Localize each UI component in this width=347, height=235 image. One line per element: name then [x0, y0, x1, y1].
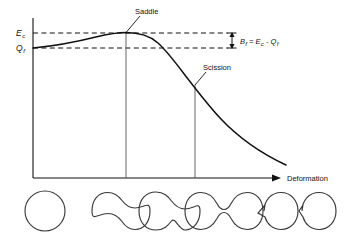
- shape-slightly-deformed: [92, 193, 150, 230]
- barrier-height-annotation: Bf = Ec - Qf: [228, 32, 280, 49]
- formula-bf: B: [240, 37, 245, 46]
- qf-label: Qf: [16, 43, 26, 54]
- formula-qf: Q: [271, 37, 277, 46]
- fission-energy-diagram: Saddle Scission Ec Qf Bf = Ec - Qf Defor…: [0, 0, 347, 235]
- x-axis-arrowhead: [272, 175, 281, 182]
- nuclear-shape-sequence: [25, 191, 336, 231]
- saddle-leader-line: [126, 16, 140, 33]
- x-axis-label: Deformation: [287, 174, 328, 183]
- qf-label-subscript: f: [23, 48, 26, 54]
- formula-minus: -: [264, 37, 271, 46]
- shape-sphere: [25, 191, 65, 231]
- scission-leader-line: [195, 72, 206, 85]
- diagram-canvas: Saddle Scission Ec Qf Bf = Ec - Qf Defor…: [0, 0, 347, 235]
- scission-annotation: Scission: [195, 63, 231, 85]
- saddle-label: Saddle: [135, 7, 158, 16]
- formula-equals: =: [247, 37, 256, 46]
- y-axis-labels: Ec Qf: [16, 28, 26, 54]
- shape-separated-fragment: [299, 193, 336, 230]
- saddle-annotation: Saddle: [126, 7, 158, 33]
- barrier-formula: Bf = Ec - Qf: [240, 37, 280, 47]
- ec-label: Ec: [16, 28, 25, 39]
- reference-lines-group: [33, 33, 228, 48]
- shape-dumbbell: [139, 192, 200, 230]
- drop-lines-group: [126, 33, 195, 178]
- qf-label-main: Q: [16, 43, 23, 53]
- ec-label-main: E: [16, 28, 22, 38]
- scission-label: Scission: [203, 63, 231, 72]
- ec-label-subscript: c: [22, 33, 25, 39]
- potential-energy-curve: [33, 33, 286, 165]
- shape-scission-point: [258, 193, 298, 230]
- formula-qf-subscript: f: [277, 41, 280, 47]
